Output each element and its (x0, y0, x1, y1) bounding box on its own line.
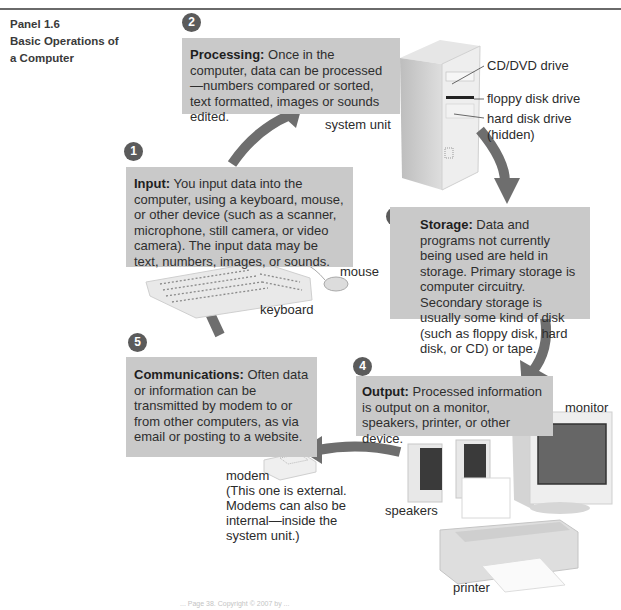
label-cd-dvd-drive: CD/DVD drive (487, 58, 569, 74)
label-modem-note-4: system unit.) (226, 528, 300, 544)
step-badge-2: 2 (182, 13, 201, 32)
storage-heading: Storage: (420, 217, 473, 232)
label-hard-disk-hidden: (hidden) (487, 127, 535, 143)
output-heading: Output: (362, 384, 409, 399)
step-badge-1: 1 (124, 142, 143, 161)
copyright-footer: ... Page 38. Copyright © 2007 by ... (180, 600, 289, 607)
label-monitor: monitor (565, 400, 608, 416)
label-speakers: speakers (385, 503, 438, 519)
label-hard-disk-drive: hard disk drive (487, 111, 572, 127)
communications-heading: Communications: (134, 367, 244, 382)
label-modem: modem (226, 468, 269, 484)
step-badge-4: 4 (353, 357, 372, 376)
step-badge-5: 5 (128, 333, 147, 352)
storage-box: Storage: Data and programs not currently… (390, 207, 590, 319)
label-modem-note-2: Modems can also be (226, 498, 346, 514)
arrow-input-to-processing (232, 115, 290, 164)
system-unit-icon (400, 40, 484, 190)
label-printer: printer (453, 580, 490, 596)
processing-box: Processing: Once in the computer, data c… (182, 38, 400, 114)
storage-text: Data and programs not currently being us… (420, 217, 575, 356)
label-keyboard: keyboard (260, 302, 313, 318)
output-box: Output: Processed information is output … (356, 376, 553, 436)
label-modem-note-3: internal—inside the (226, 513, 337, 529)
label-modem-note-1: (This one is external. (226, 483, 347, 499)
communications-box: Communications: Often data or informatio… (126, 357, 317, 457)
processing-heading: Processing: (190, 47, 264, 62)
input-box: Input: You input data into the computer,… (126, 167, 353, 267)
label-floppy-disk-drive: floppy disk drive (487, 91, 580, 107)
label-mouse: mouse (340, 264, 379, 280)
label-system-unit: system unit (325, 117, 391, 133)
input-heading: Input: (134, 176, 170, 191)
